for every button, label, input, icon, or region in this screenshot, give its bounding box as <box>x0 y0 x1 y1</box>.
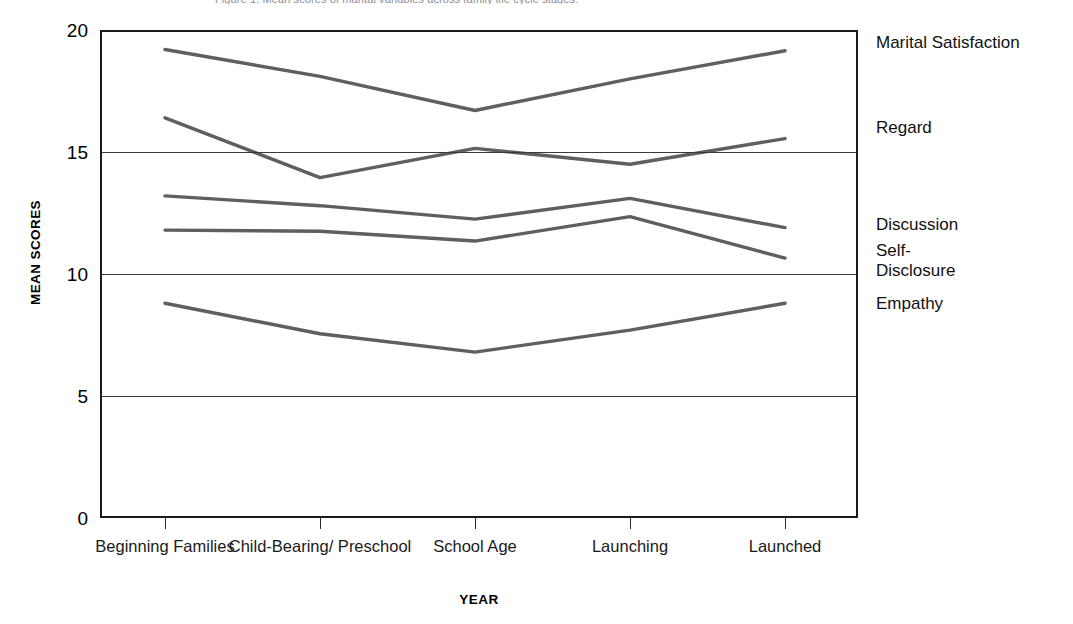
x-tick-1 <box>320 518 321 529</box>
gridline-5 <box>102 396 856 397</box>
y-axis-title: MEAN SCORES <box>28 158 43 348</box>
line-chart-figure: Figure 1. Mean scores of marital variabl… <box>0 0 1073 624</box>
series-line-marital-satisfaction <box>165 50 785 111</box>
series-label-self-disclosure: Self- Disclosure <box>876 241 955 281</box>
gridline-10 <box>102 274 856 275</box>
y-tick-label-20: 20 <box>8 21 88 40</box>
gridline-15 <box>102 152 856 153</box>
series-line-discussion <box>165 196 785 228</box>
x-tick-4 <box>785 518 786 529</box>
y-tick-label-5: 5 <box>8 387 88 406</box>
x-axis-title: YEAR <box>100 592 858 607</box>
y-tick-label-15: 15 <box>8 143 88 162</box>
plot-area <box>100 30 858 518</box>
series-label-discussion: Discussion <box>876 215 958 235</box>
y-tick-label-0: 0 <box>8 509 88 528</box>
x-tick-2 <box>475 518 476 529</box>
x-tick-3 <box>630 518 631 529</box>
series-line-empathy <box>165 303 785 352</box>
series-label-regard: Regard <box>876 118 932 138</box>
x-axis-label-launched: Launched <box>690 536 880 556</box>
series-line-self--disclosure <box>165 217 785 258</box>
series-line-regard <box>165 118 785 178</box>
series-label-empathy: Empathy <box>876 294 943 314</box>
series-label-marital-satisfaction: Marital Satisfaction <box>876 33 1020 53</box>
y-tick-label-10: 10 <box>8 265 88 284</box>
x-tick-0 <box>165 518 166 529</box>
